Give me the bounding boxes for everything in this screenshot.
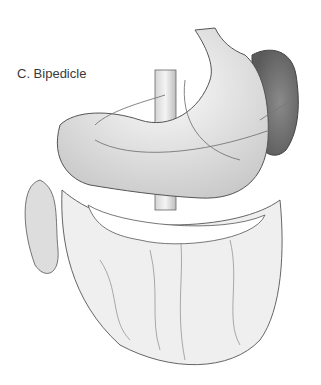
colon xyxy=(25,180,58,273)
anatomical-illustration xyxy=(0,0,321,385)
